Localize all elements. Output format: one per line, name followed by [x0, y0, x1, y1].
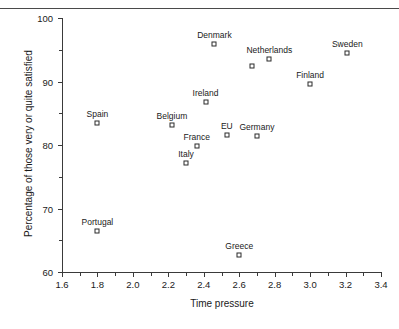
x-tick [97, 273, 98, 277]
data-point-marker [194, 144, 199, 149]
x-tick-label: 2.6 [233, 279, 246, 290]
x-tick-label: 2.4 [197, 279, 210, 290]
data-point-marker [212, 42, 217, 47]
data-point-label: EU [221, 121, 233, 131]
x-tick [310, 273, 311, 277]
data-point-label: France [183, 132, 209, 142]
x-tick [346, 273, 347, 277]
x-tick-minor [257, 273, 258, 276]
x-tick-minor [292, 273, 293, 276]
data-point-marker [267, 57, 272, 62]
top-rule [0, 8, 399, 9]
x-tick-minor [115, 273, 116, 276]
data-point-marker [95, 229, 100, 234]
x-tick-minor [186, 273, 187, 276]
y-tick [58, 209, 62, 210]
x-tick-label: 3.0 [304, 279, 317, 290]
x-tick-label: 3.4 [374, 279, 387, 290]
x-tick-label: 3.2 [339, 279, 352, 290]
data-point-label: Ireland [193, 88, 219, 98]
x-tick [381, 273, 382, 277]
y-axis-line [62, 18, 63, 273]
data-point-label: Spain [87, 109, 109, 119]
x-tick-minor [328, 273, 329, 276]
y-tick [58, 272, 62, 273]
x-tick [204, 273, 205, 277]
data-point-marker [254, 134, 259, 139]
data-point-marker [249, 63, 254, 68]
y-axis-title: Percentage of those very or quite satisf… [23, 19, 34, 269]
y-tick-minor [59, 240, 62, 241]
data-point-label: Denmark [197, 30, 231, 40]
x-tick [239, 273, 240, 277]
x-tick-label: 1.8 [91, 279, 104, 290]
y-tick-minor [59, 177, 62, 178]
data-point-marker [95, 121, 100, 126]
data-point-marker [345, 50, 350, 55]
data-point-marker [224, 132, 229, 137]
data-point-label: Netherlands [246, 45, 292, 55]
x-axis-title: Time pressure [62, 298, 382, 309]
x-tick-minor [151, 273, 152, 276]
y-tick [58, 18, 62, 19]
x-tick-label: 2.8 [268, 279, 281, 290]
x-tick-minor [222, 273, 223, 276]
x-tick [133, 273, 134, 277]
x-tick-minor [80, 273, 81, 276]
data-point-label: Sweden [332, 39, 363, 49]
x-tick [275, 273, 276, 277]
y-tick-minor [59, 113, 62, 114]
data-point-label: Germany [239, 122, 274, 132]
data-point-label: Portugal [82, 217, 114, 227]
x-tick [168, 273, 169, 277]
y-tick [58, 82, 62, 83]
x-tick-label: 2.0 [126, 279, 139, 290]
x-tick-minor [363, 273, 364, 276]
x-tick-label: 1.6 [55, 279, 68, 290]
y-tick [58, 145, 62, 146]
data-point-label: Finland [296, 70, 324, 80]
data-point-marker [169, 123, 174, 128]
data-point-marker [237, 252, 242, 257]
data-point-label: Greece [225, 241, 253, 251]
x-tick [62, 273, 63, 277]
data-point-marker [308, 82, 313, 87]
data-point-marker [203, 99, 208, 104]
scatter-plot-figure: 1.61.82.02.22.42.62.83.03.23.46070809010… [0, 0, 399, 329]
data-point-label: Italy [178, 149, 194, 159]
y-tick-minor [59, 50, 62, 51]
data-point-marker [184, 161, 189, 166]
x-tick-label: 2.2 [162, 279, 175, 290]
data-point-label: Belgium [157, 111, 188, 121]
